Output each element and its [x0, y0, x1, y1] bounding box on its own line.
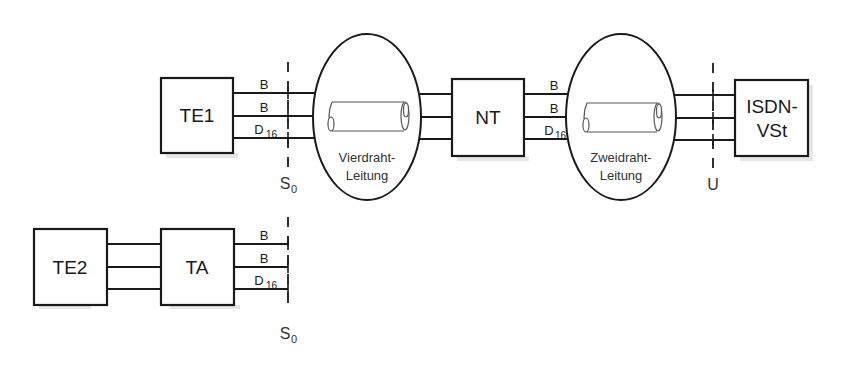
- channel-d-label: D: [254, 273, 263, 288]
- channel-d-subscript: 16: [266, 280, 278, 291]
- two-wire-cable: Zweidraht- Leitung: [566, 34, 676, 200]
- te2-label: TE2: [53, 257, 88, 278]
- svg-text:0: 0: [291, 333, 297, 345]
- te1-channel-labels: B B D 16: [254, 77, 277, 140]
- four-wire-to-nt-wires: [420, 94, 452, 139]
- channel-b-label: B: [260, 251, 269, 266]
- s0-upper-label: S 0: [280, 175, 297, 195]
- ta-box: TA: [161, 229, 240, 309]
- channel-b-label: B: [550, 101, 559, 116]
- two-wire-label-line2: Leitung: [600, 168, 643, 183]
- channel-d-subscript: 16: [555, 130, 567, 141]
- four-wire-label-line2: Leitung: [346, 168, 389, 183]
- channel-b-label: B: [550, 78, 559, 93]
- channel-d-label: D: [544, 123, 553, 138]
- four-wire-cable: Vierdraht- Leitung: [313, 34, 421, 200]
- channel-d-subscript: 16: [266, 129, 278, 140]
- isdn-diagram: Vierdraht- Leitung Zweidraht- Leitung TE…: [0, 0, 842, 368]
- nt-box: NT: [452, 79, 529, 161]
- s0-lower-label: S 0: [280, 325, 297, 345]
- te1-label: TE1: [180, 105, 215, 126]
- isdn-vst-label-line1: ISDN-: [746, 96, 798, 117]
- channel-b-label: B: [260, 100, 269, 115]
- te2-box: TE2: [34, 229, 107, 309]
- two-wire-label-line1: Zweidraht-: [590, 150, 651, 165]
- four-wire-label-line1: Vierdraht-: [339, 150, 396, 165]
- svg-text:S: S: [280, 175, 291, 192]
- ta-channel-labels: B B D 16: [254, 228, 277, 291]
- channel-d-label: D: [254, 122, 263, 137]
- svg-text:S: S: [280, 325, 291, 342]
- two-wire-to-vst-wires: [675, 95, 735, 140]
- isdn-vst-box: ISDN- VSt: [735, 80, 813, 161]
- ta-label: TA: [186, 257, 209, 278]
- channel-b-label: B: [260, 228, 269, 243]
- nt-label: NT: [475, 107, 501, 128]
- u-label: U: [707, 176, 719, 193]
- svg-text:U: U: [707, 176, 719, 193]
- svg-text:0: 0: [291, 183, 297, 195]
- isdn-vst-label-line2: VSt: [757, 120, 788, 141]
- nt-channel-labels: B B D 16: [544, 78, 566, 141]
- te2-ta-wires: [107, 244, 161, 289]
- channel-b-label: B: [260, 77, 269, 92]
- te1-box: TE1: [161, 78, 238, 158]
